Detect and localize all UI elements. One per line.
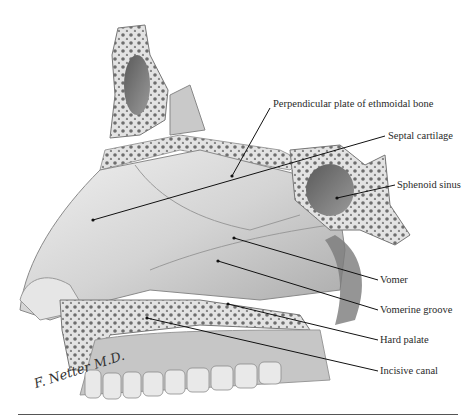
bottom-divider bbox=[18, 414, 458, 415]
label-hard-palate: Hard palate bbox=[380, 334, 429, 346]
anatomical-figure: Perpendicular plate of ethmoidal bone Se… bbox=[0, 0, 472, 420]
label-vomer: Vomer bbox=[380, 274, 408, 286]
label-septal-cartilage: Septal cartilage bbox=[388, 130, 453, 142]
label-incisive-canal: Incisive canal bbox=[380, 365, 438, 377]
label-sphenoid-sinus: Sphenoid sinus bbox=[397, 179, 461, 191]
label-perpendicular-plate: Perpendicular plate of ethmoidal bone bbox=[273, 98, 433, 110]
label-vomerine-groove: Vomerine groove bbox=[380, 304, 452, 316]
nasal-septum-illustration bbox=[0, 0, 472, 420]
